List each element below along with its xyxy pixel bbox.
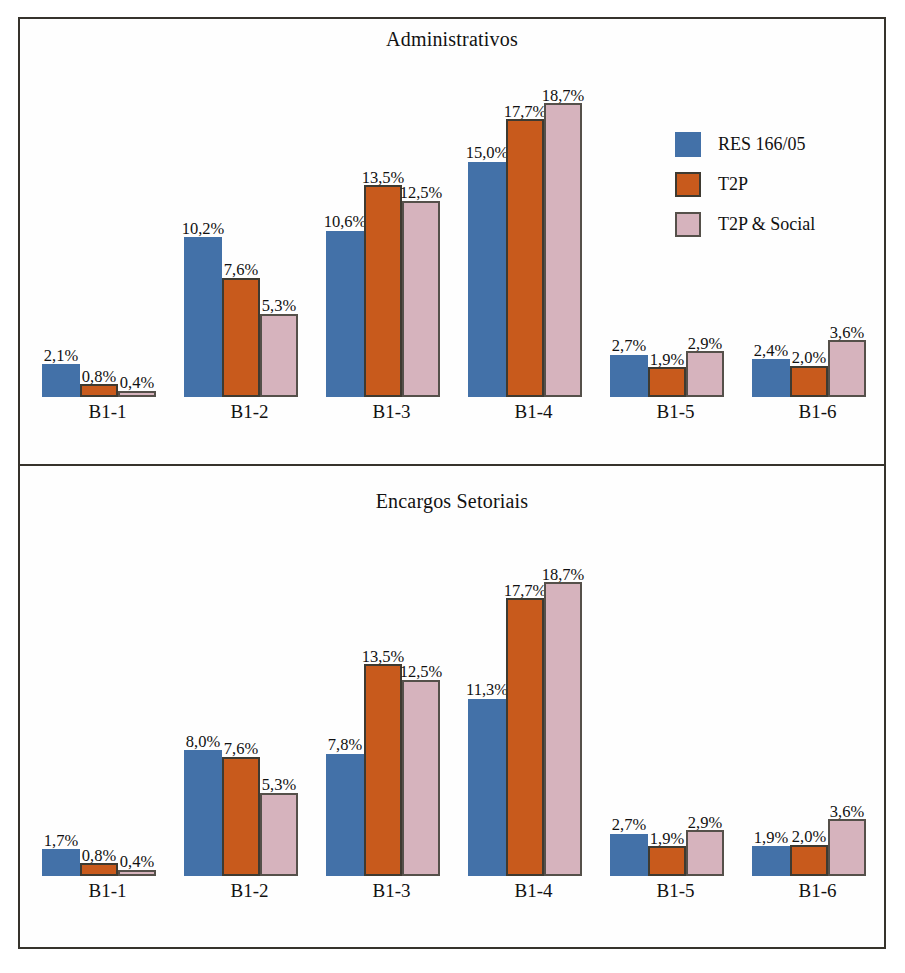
bar-value-label: 18,7% (542, 566, 585, 583)
bar-b1-5-t2p-social[interactable]: 2,9% (686, 830, 724, 876)
bar-b1-5-t2p[interactable]: 1,9% (648, 846, 686, 876)
bar-value-label: 7,6% (224, 261, 258, 278)
bar-b1-4-res-166-05[interactable]: 11,3% (468, 699, 506, 876)
bar-value-label: 0,4% (120, 374, 154, 391)
bar-value-label: 3,6% (830, 803, 864, 820)
bar-value-label: 2,9% (688, 814, 722, 831)
bar-slot: 2,7% (610, 57, 648, 397)
bar-b1-5-t2p-social[interactable]: 2,9% (686, 351, 724, 397)
category-axis-bottom: B1-1B1-2B1-3B1-4B1-5B1-6 (28, 880, 876, 902)
bar-b1-6-res-166-05[interactable]: 2,4% (752, 359, 790, 397)
bar-value-label: 0,4% (120, 853, 154, 870)
chart-panel-encargos-setoriais: Encargos Setoriais 1,7%0,8%0,4%8,0%7,6%5… (20, 466, 884, 947)
bar-group-b1-4: 15,0%17,7%18,7% (468, 57, 599, 397)
legend-swatch-res (675, 132, 701, 157)
bar-value-label: 2,4% (754, 342, 788, 359)
bar-value-label: 2,7% (612, 337, 646, 354)
bar-b1-6-t2p[interactable]: 2,0% (790, 366, 828, 397)
bar-slot: 10,6% (326, 57, 364, 397)
bar-slot: 15,0% (468, 57, 506, 397)
bar-slot: 5,3% (260, 57, 298, 397)
bar-b1-1-t2p[interactable]: 0,8% (80, 384, 118, 397)
bar-b1-4-t2p[interactable]: 17,7% (506, 119, 544, 397)
bar-b1-6-t2p[interactable]: 2,0% (790, 845, 828, 876)
bar-slot: 7,6% (222, 536, 260, 876)
bar-group-b1-4: 11,3%17,7%18,7% (468, 536, 599, 876)
bar-slot: 0,4% (118, 536, 156, 876)
bar-b1-4-t2p-social[interactable]: 18,7% (544, 582, 582, 876)
category-label-b1-5: B1-5 (610, 401, 741, 423)
category-label-b1-3: B1-3 (326, 401, 457, 423)
bar-b1-3-t2p-social[interactable]: 12,5% (402, 201, 440, 397)
bar-b1-6-t2p-social[interactable]: 3,6% (828, 819, 866, 876)
bar-slot: 2,1% (42, 57, 80, 397)
bar-b1-5-res-166-05[interactable]: 2,7% (610, 355, 648, 397)
bar-b1-4-t2p[interactable]: 17,7% (506, 598, 544, 876)
panel-title-bottom: Encargos Setoriais (20, 490, 884, 513)
bar-b1-4-res-166-05[interactable]: 15,0% (468, 162, 506, 398)
bar-b1-3-res-166-05[interactable]: 10,6% (326, 231, 364, 397)
bar-slot: 7,8% (326, 536, 364, 876)
bar-value-label: 5,3% (262, 776, 296, 793)
bar-b1-3-t2p[interactable]: 13,5% (364, 664, 402, 876)
bar-slot: 10,2% (184, 57, 222, 397)
legend-item-t2p-social[interactable]: T2P & Social (675, 204, 815, 244)
bar-b1-2-res-166-05[interactable]: 8,0% (184, 750, 222, 876)
bar-slot: 13,5% (364, 536, 402, 876)
bar-value-label: 15,0% (466, 144, 509, 161)
bar-value-label: 11,3% (466, 681, 508, 698)
bar-group-b1-5: 2,7%1,9%2,9% (610, 536, 741, 876)
bar-b1-4-t2p-social[interactable]: 18,7% (544, 103, 582, 397)
bar-b1-2-t2p[interactable]: 7,6% (222, 757, 260, 876)
bar-value-label: 10,6% (324, 213, 367, 230)
bar-slot: 0,4% (118, 57, 156, 397)
bar-value-label: 2,7% (612, 816, 646, 833)
bar-value-label: 12,5% (400, 663, 443, 680)
category-axis-top: B1-1B1-2B1-3B1-4B1-5B1-6 (28, 401, 876, 423)
bar-b1-2-res-166-05[interactable]: 10,2% (184, 237, 222, 397)
bar-b1-6-res-166-05[interactable]: 1,9% (752, 846, 790, 876)
category-label-b1-3: B1-3 (326, 880, 457, 902)
bar-slot: 2,9% (686, 536, 724, 876)
bar-group-b1-2: 10,2%7,6%5,3% (184, 57, 315, 397)
bar-slot: 1,7% (42, 536, 80, 876)
bar-b1-6-t2p-social[interactable]: 3,6% (828, 340, 866, 397)
bar-b1-3-t2p-social[interactable]: 12,5% (402, 680, 440, 876)
bar-value-label: 17,7% (504, 103, 547, 120)
bar-value-label: 17,7% (504, 582, 547, 599)
bar-slot: 2,7% (610, 536, 648, 876)
bar-slot: 5,3% (260, 536, 298, 876)
bar-slot: 1,9% (752, 536, 790, 876)
bar-b1-1-t2p-social[interactable]: 0,4% (118, 391, 156, 397)
bar-b1-3-res-166-05[interactable]: 7,8% (326, 754, 364, 876)
category-label-b1-4: B1-4 (468, 401, 599, 423)
bar-b1-3-t2p[interactable]: 13,5% (364, 185, 402, 397)
bar-b1-2-t2p-social[interactable]: 5,3% (260, 314, 298, 397)
bar-value-label: 1,9% (650, 351, 684, 368)
bar-b1-2-t2p[interactable]: 7,6% (222, 278, 260, 397)
bar-b1-5-t2p[interactable]: 1,9% (648, 367, 686, 397)
category-label-b1-6: B1-6 (752, 401, 883, 423)
bar-slot: 18,7% (544, 536, 582, 876)
bar-slot: 3,6% (828, 57, 866, 397)
bar-b1-1-t2p[interactable]: 0,8% (80, 863, 118, 876)
bar-group-b1-6: 1,9%2,0%3,6% (752, 536, 883, 876)
category-label-b1-4: B1-4 (468, 880, 599, 902)
category-label-b1-6: B1-6 (752, 880, 883, 902)
bar-value-label: 2,1% (44, 347, 78, 364)
legend-item-t2p[interactable]: T2P (675, 164, 815, 204)
legend-label: RES 166/05 (718, 134, 806, 155)
bar-b1-1-t2p-social[interactable]: 0,4% (118, 870, 156, 876)
bar-b1-1-res-166-05[interactable]: 2,1% (42, 364, 80, 397)
bar-value-label: 2,0% (792, 828, 826, 845)
bar-b1-1-res-166-05[interactable]: 1,7% (42, 849, 80, 876)
bar-b1-2-t2p-social[interactable]: 5,3% (260, 793, 298, 876)
category-label-b1-2: B1-2 (184, 401, 315, 423)
bar-value-label: 7,8% (328, 736, 362, 753)
category-label-b1-2: B1-2 (184, 880, 315, 902)
bar-value-label: 1,9% (650, 830, 684, 847)
bar-b1-5-res-166-05[interactable]: 2,7% (610, 834, 648, 876)
bar-slot: 0,8% (80, 536, 118, 876)
legend-item-res[interactable]: RES 166/05 (675, 124, 815, 164)
bar-value-label: 3,6% (830, 324, 864, 341)
